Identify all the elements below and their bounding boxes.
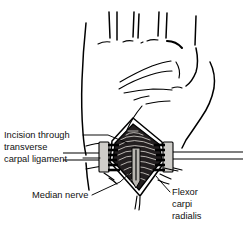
label-incision-line3: carpal ligament [4, 154, 67, 164]
carpal-tunnel-illustration: Incision through transverse carpal ligam… [0, 0, 245, 236]
label-median-nerve: Median nerve [32, 190, 88, 200]
label-flexor-line1: Flexor [172, 187, 198, 197]
label-incision-line2: transverse [4, 142, 47, 152]
label-flexor-line2: carpi [172, 199, 192, 209]
label-incision-line1: Incision through [4, 130, 70, 140]
label-flexor-line3: radialis [172, 211, 202, 221]
figure-background [0, 0, 245, 236]
illustration-canvas: Incision through transverse carpal ligam… [0, 0, 245, 236]
